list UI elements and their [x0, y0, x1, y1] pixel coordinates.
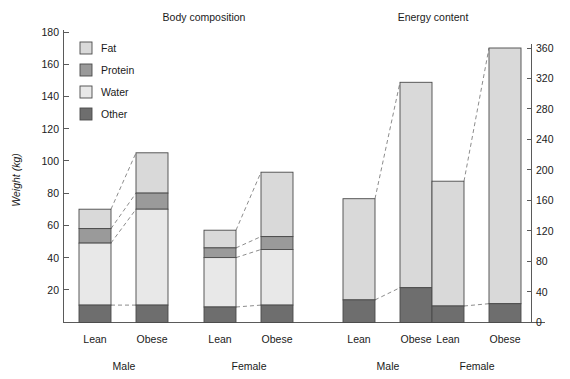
bar-segment-protein[interactable]: [204, 248, 236, 258]
bar-segment-fat[interactable]: [261, 172, 293, 236]
legend-label-water: Water: [101, 86, 129, 98]
panel-title-body-composition: Body composition: [163, 11, 246, 23]
bar-segment-fat[interactable]: [400, 82, 432, 287]
right-tick-120: 120: [536, 225, 554, 237]
legend-item-other[interactable]: Other: [80, 108, 128, 120]
bar-segment-protein[interactable]: [343, 300, 375, 323]
left-tick-180: 180: [41, 26, 59, 38]
legend-label-fat: Fat: [101, 42, 116, 54]
left-axis-title: Weight (kg): [10, 153, 22, 207]
left-panel-connectors: [111, 153, 261, 307]
bar-segment-fat[interactable]: [432, 181, 464, 306]
cat-label-female-obese: Obese: [262, 333, 293, 345]
bar-segment-protein[interactable]: [432, 306, 464, 323]
bar-segment-other[interactable]: [136, 305, 168, 322]
chart-svg: Body composition Energy content 180 160 …: [0, 0, 570, 379]
right-tick-80: 80: [536, 255, 548, 267]
legend-item-fat[interactable]: Fat: [80, 42, 116, 54]
cat-label-male-lean: Lean: [83, 333, 107, 345]
legend-swatch-protein-icon: [80, 64, 92, 76]
bar-segment-fat[interactable]: [489, 48, 521, 304]
bar-segment-water[interactable]: [79, 243, 111, 305]
group-label-female-left: Female: [231, 360, 266, 372]
left-tick-120: 120: [41, 123, 59, 135]
right-tick-200: 200: [536, 164, 554, 176]
cat-label-male-obese: Obese: [137, 333, 168, 345]
bar-group-male-obese-energy[interactable]: [400, 82, 432, 322]
legend-swatch-fat-icon: [80, 42, 92, 54]
bar-group-female-lean-composition[interactable]: [204, 230, 236, 322]
legend-label-other: Other: [101, 108, 128, 120]
category-labels-right-panel: Lean Obese Lean Obese: [347, 333, 520, 345]
panel-title-energy-content: Energy content: [398, 11, 469, 23]
left-tick-40: 40: [47, 252, 59, 264]
cat-label-female-lean: Lean: [208, 333, 232, 345]
bar-segment-water[interactable]: [204, 258, 236, 307]
right-tick-240: 240: [536, 133, 554, 145]
right-tick-40: 40: [536, 286, 548, 298]
figure-canvas: Body composition Energy content 180 160 …: [0, 0, 570, 379]
left-tick-160: 160: [41, 58, 59, 70]
bar-segment-protein[interactable]: [261, 237, 293, 250]
legend-label-protein: Protein: [101, 64, 134, 76]
group-label-female-right: Female: [459, 360, 494, 372]
group-label-male-right: Male: [377, 360, 400, 372]
bar-segment-other[interactable]: [79, 305, 111, 322]
bar-group-female-lean-energy[interactable]: [432, 181, 464, 322]
bar-segment-fat[interactable]: [79, 209, 111, 228]
bar-group-male-lean-composition[interactable]: [79, 209, 111, 322]
left-tick-100: 100: [41, 155, 59, 167]
right-y-axis: 360 320 280 240 200 160 120 80 40 0: [527, 42, 554, 328]
category-labels-left-panel: Lean Obese Lean Obese: [83, 333, 292, 345]
cat-label-female-lean: Lean: [436, 333, 460, 345]
bar-segment-other[interactable]: [204, 307, 236, 323]
left-tick-140: 140: [41, 90, 59, 102]
right-tick-280: 280: [536, 103, 554, 115]
legend-swatch-water-icon: [80, 86, 92, 98]
right-axis-ticks: [527, 48, 532, 322]
bar-group-female-obese-composition[interactable]: [261, 172, 293, 322]
bar-segment-fat[interactable]: [343, 199, 375, 300]
bar-segment-other[interactable]: [261, 305, 293, 322]
left-y-axis: 180 160 140 120 100 80 60 40 20 Weight (…: [10, 26, 69, 323]
bar-segment-protein[interactable]: [79, 229, 111, 244]
left-tick-60: 60: [47, 219, 59, 231]
right-tick-360: 360: [536, 42, 554, 54]
left-tick-20: 20: [47, 284, 59, 296]
legend: Fat Protein Water Other: [80, 42, 134, 120]
bar-segment-fat[interactable]: [204, 230, 236, 248]
legend-item-water[interactable]: Water: [80, 86, 129, 98]
bar-group-male-obese-composition[interactable]: [136, 153, 168, 323]
cat-label-male-lean: Lean: [347, 333, 371, 345]
group-labels: Male Female Male Female: [113, 360, 495, 372]
legend-swatch-other-icon: [80, 108, 92, 120]
cat-label-female-obese: Obese: [490, 333, 521, 345]
bar-segment-water[interactable]: [136, 209, 168, 305]
bar-segment-protein[interactable]: [136, 193, 168, 209]
left-tick-80: 80: [47, 187, 59, 199]
cat-label-male-obese: Obese: [401, 333, 432, 345]
right-tick-0: 0: [536, 316, 542, 328]
left-axis-ticks: [64, 32, 69, 290]
bar-segment-protein[interactable]: [400, 288, 432, 323]
right-tick-160: 160: [536, 194, 554, 206]
bar-segment-protein[interactable]: [489, 304, 521, 323]
bar-group-male-lean-energy[interactable]: [343, 199, 375, 323]
legend-item-protein[interactable]: Protein: [80, 64, 134, 76]
right-tick-320: 320: [536, 72, 554, 84]
group-label-male-left: Male: [113, 360, 136, 372]
bar-segment-water[interactable]: [261, 250, 293, 306]
bar-segment-fat[interactable]: [136, 153, 168, 193]
bar-group-female-obese-energy[interactable]: [489, 48, 521, 323]
